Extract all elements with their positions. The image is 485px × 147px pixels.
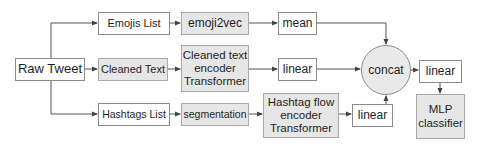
emoji2vec-node: emoji2vec [181, 12, 249, 35]
linear-hashtag-label: linear [358, 109, 387, 123]
cleaned-text-encoder-node: Cleaned text encoder Transformer [181, 45, 249, 92]
emojis-list-label: Emojis List [107, 17, 160, 30]
raw-tweet-label: Raw Tweet [18, 62, 82, 77]
hashtag-flow-encoder-node: Hashtag flow encoder Transformer [263, 93, 339, 138]
mean-label: mean [282, 17, 312, 31]
segmentation-label: segmentation [183, 108, 246, 120]
linear-text-label: linear [283, 63, 312, 77]
emojis-list-node: Emojis List [98, 12, 170, 35]
concat-label: concat [368, 63, 403, 77]
hashtag-flow-encoder-label: Hashtag flow encoder Transformer [268, 96, 334, 136]
hashtags-list-label: Hashtags List [102, 108, 166, 120]
emoji2vec-label: emoji2vec [188, 17, 242, 31]
mlp-classifier-label: MLP classifier [418, 103, 463, 129]
linear-hashtag-node: linear [352, 104, 393, 127]
concat-node: concat [361, 45, 411, 95]
cleaned-text-encoder-label: Cleaned text encoder Transformer [183, 49, 248, 89]
cleaned-text-label: Cleaned Text [101, 63, 165, 76]
linear-output-node: linear [419, 60, 462, 83]
mlp-classifier-node: MLP classifier [416, 94, 465, 139]
hashtags-list-node: Hashtags List [98, 103, 170, 126]
linear-text-node: linear [278, 58, 317, 81]
cleaned-text-node: Cleaned Text [98, 58, 168, 81]
mean-node: mean [278, 12, 317, 35]
raw-tweet-node: Raw Tweet [15, 58, 85, 81]
segmentation-node: segmentation [181, 103, 249, 126]
linear-output-label: linear [426, 65, 455, 79]
